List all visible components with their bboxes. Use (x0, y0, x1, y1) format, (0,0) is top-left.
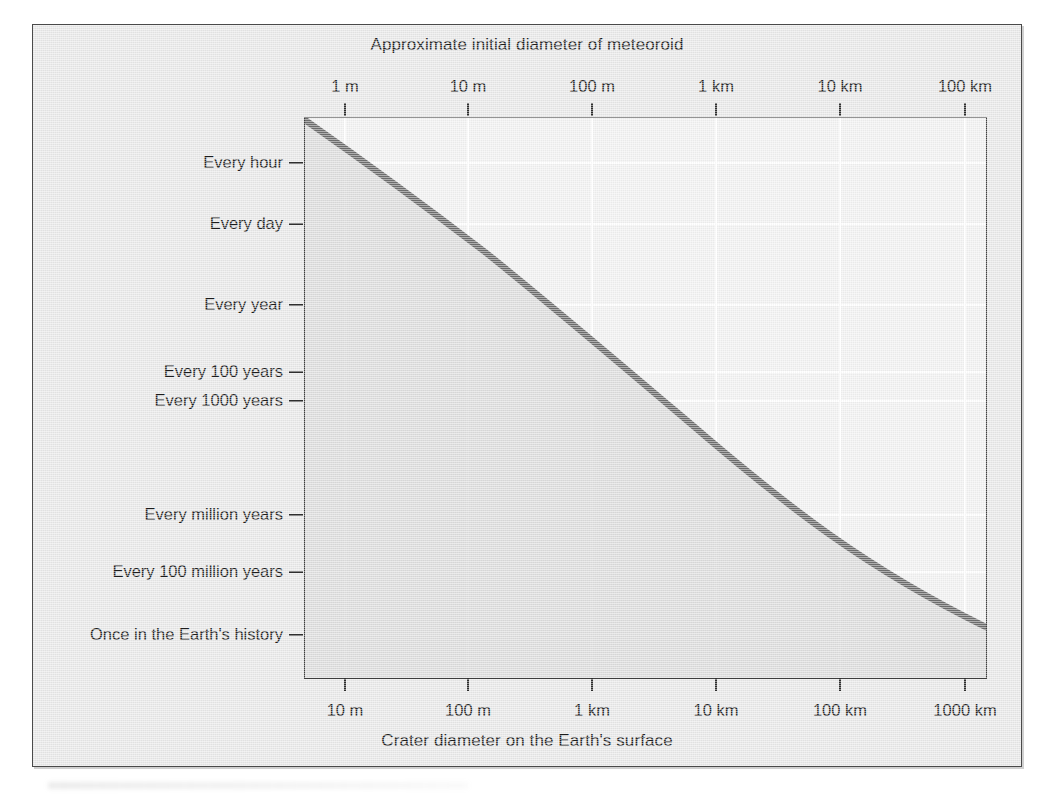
xbot-tick-mark-2 (591, 678, 593, 691)
caption-smudge (48, 782, 468, 789)
ytick-mark-5 (289, 514, 303, 516)
chart-svg (305, 118, 986, 678)
xbot-tick-label-5: 1000 km (933, 701, 996, 720)
xbot-tick-mark-0 (344, 678, 346, 691)
xbot-tick-label-3: 10 km (694, 701, 739, 720)
ytick-mark-0 (289, 162, 303, 164)
xtop-tick-mark-1 (467, 103, 469, 116)
ytick-mark-1 (289, 223, 303, 225)
xtop-tick-mark-0 (344, 103, 346, 116)
xtop-tick-mark-5 (964, 103, 966, 116)
plot-area (304, 117, 987, 679)
ytick-label-1: Every day (33, 214, 283, 233)
xbot-tick-mark-1 (467, 678, 469, 691)
xtop-tick-label-5: 100 km (938, 77, 992, 96)
chart-panel: Approximate initial diameter of meteoroi… (32, 24, 1022, 767)
ytick-label-7: Once in the Earth's history (33, 625, 283, 644)
ytick-mark-4 (289, 400, 303, 402)
xbot-tick-mark-3 (715, 678, 717, 691)
xbot-tick-label-0: 10 m (327, 701, 364, 720)
shaded-region (305, 120, 986, 678)
ytick-label-5: Every million years (33, 505, 283, 524)
top-axis-title: Approximate initial diameter of meteoroi… (33, 35, 1021, 55)
ytick-mark-3 (289, 371, 303, 373)
impact-frequency-figure: Approximate initial diameter of meteoroi… (0, 0, 1040, 795)
xbot-tick-mark-4 (839, 678, 841, 691)
bottom-axis-title: Crater diameter on the Earth's surface (33, 731, 1021, 751)
xtop-tick-label-2: 100 m (569, 77, 615, 96)
xtop-tick-label-3: 1 km (698, 77, 734, 96)
ytick-mark-2 (289, 304, 303, 306)
xtop-tick-mark-2 (591, 103, 593, 116)
xtop-tick-mark-4 (839, 103, 841, 116)
ytick-label-0: Every hour (33, 153, 283, 172)
ytick-mark-7 (289, 634, 303, 636)
xtop-tick-mark-3 (715, 103, 717, 116)
xtop-tick-label-4: 10 km (818, 77, 863, 96)
xtop-tick-label-0: 1 m (331, 77, 359, 96)
xbot-tick-label-4: 100 km (813, 701, 867, 720)
xbot-tick-mark-5 (964, 678, 966, 691)
ytick-label-4: Every 1000 years (33, 391, 283, 410)
ytick-label-6: Every 100 million years (33, 562, 283, 581)
xtop-tick-label-1: 10 m (450, 77, 487, 96)
ytick-mark-6 (289, 571, 303, 573)
xbot-tick-label-1: 100 m (445, 701, 491, 720)
ytick-label-2: Every year (33, 295, 283, 314)
ytick-label-3: Every 100 years (33, 362, 283, 381)
xbot-tick-label-2: 1 km (574, 701, 610, 720)
